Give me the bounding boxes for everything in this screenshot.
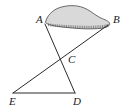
vertex-label-b: B bbox=[113, 14, 120, 25]
vertex-label-a: A bbox=[36, 14, 43, 25]
geometry-figure: A B C D E bbox=[0, 0, 127, 112]
segment-BE bbox=[13, 25, 108, 93]
segments-group bbox=[13, 24, 108, 93]
shaded-blob-region bbox=[46, 6, 110, 29]
shaded-region-group bbox=[46, 6, 110, 29]
figure-canvas bbox=[0, 0, 127, 112]
vertex-label-d: D bbox=[73, 96, 81, 107]
vertex-label-e: E bbox=[9, 96, 16, 107]
vertex-label-c: C bbox=[68, 54, 75, 65]
